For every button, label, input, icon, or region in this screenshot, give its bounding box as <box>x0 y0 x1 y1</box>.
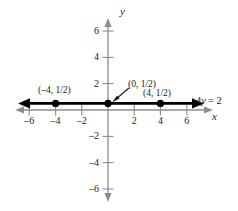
x-axis-left-arrowhead <box>15 106 24 113</box>
x-tick-label--2: –2 <box>74 116 90 126</box>
equation-label: 4y= 2 <box>196 96 222 107</box>
y-tick-label--4: –4 <box>83 158 99 168</box>
x-tick-label--4: –4 <box>48 116 64 126</box>
axes-group <box>15 18 213 202</box>
point-4-half <box>157 100 164 107</box>
leader-arrow-group <box>112 88 129 102</box>
x-axis-label: x <box>212 111 217 122</box>
y-tick-label-2: 2 <box>89 79 99 89</box>
y-tick-label-6: 6 <box>89 26 99 36</box>
y-tick-label-4: 4 <box>89 52 99 62</box>
point-minus4-half <box>52 100 59 107</box>
y-tick-label--2: –2 <box>83 131 99 141</box>
equation-relation: = 2 <box>208 95 222 106</box>
x-tick-label-4: 4 <box>155 116 165 126</box>
y-axis-bottom-arrowhead <box>104 193 111 202</box>
x-tick-label-2: 2 <box>129 116 139 126</box>
y-axis-top-arrowhead <box>104 18 111 27</box>
coordinate-plane-figure: y x –6 –4 –2 2 4 6 6 4 2 –2 –4 –6 (–4, 1… <box>0 0 238 211</box>
x-tick-label-6: 6 <box>182 116 192 126</box>
y-axis-label: y <box>120 6 125 17</box>
point-label-4-half: (4, 1/2) <box>143 89 171 99</box>
point-label-minus4-half: (–4, 1/2) <box>38 86 71 96</box>
x-tick-label--6: –6 <box>21 116 37 126</box>
equation-variable: y <box>201 95 206 106</box>
point-0-half <box>104 100 111 107</box>
y-tick-label--6: –6 <box>83 184 99 194</box>
